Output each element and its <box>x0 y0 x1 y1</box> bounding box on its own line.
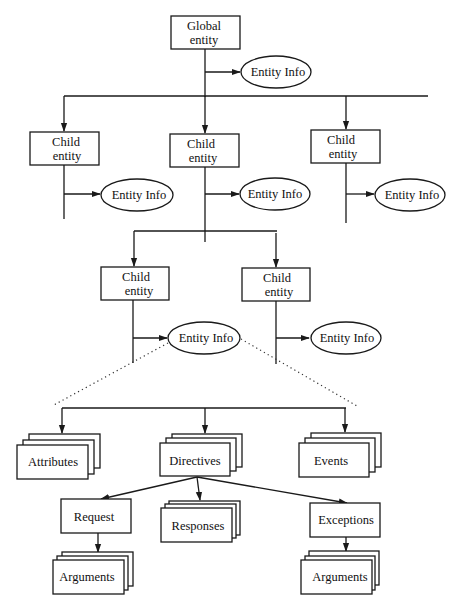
entity-hierarchy-diagram: Global entity Entity Info Child entity E… <box>0 0 463 612</box>
child-entity-label-line1: Child <box>122 270 151 284</box>
child-entity-label-line2: entity <box>265 285 294 299</box>
attributes-label: Attributes <box>28 455 78 469</box>
child-entity-l2-right: Child entity <box>242 268 310 301</box>
exceptions-label: Exceptions <box>318 513 374 527</box>
directives-to-exceptions-arrow <box>197 477 347 503</box>
child-entity-label-line1: Child <box>187 137 216 151</box>
child-entity-l1-left: Child entity <box>30 132 99 165</box>
entity-info-label: Entity Info <box>385 188 440 202</box>
request-label: Request <box>74 510 115 524</box>
child-entity-label-line1: Child <box>52 135 81 149</box>
child-entity-label-line2: entity <box>189 151 218 165</box>
child-entity-l1-middle: Child entity <box>170 134 239 167</box>
child-entity-label-line2: entity <box>125 284 154 298</box>
request-node: Request <box>61 499 131 533</box>
global-entity-info: Entity Info <box>241 56 311 88</box>
directives-stack: Directives <box>160 434 242 476</box>
expansion-dotted-left <box>52 343 168 406</box>
directives-to-responses-arrow <box>197 477 200 500</box>
global-entity-label-line1: Global <box>187 19 222 33</box>
request-arguments-stack: Arguments <box>53 552 133 594</box>
events-stack: Events <box>299 433 381 477</box>
child-entity-label-line2: entity <box>329 147 358 161</box>
attributes-stack: Attributes <box>17 434 100 479</box>
child-l2-right-entity-info: Entity Info <box>311 322 381 354</box>
entity-info-label: Entity Info <box>112 188 167 202</box>
exceptions-node: Exceptions <box>310 503 380 537</box>
child-l1-middle-entity-info: Entity Info <box>240 178 310 210</box>
child-entity-l2-left: Child entity <box>101 267 169 300</box>
entity-info-label: Entity Info <box>320 331 375 345</box>
child-l2-left-entity-info: Entity Info <box>168 322 240 354</box>
request-arguments-label: Arguments <box>59 570 114 584</box>
directives-label: Directives <box>169 454 221 468</box>
responses-stack: Responses <box>161 501 240 542</box>
exception-arguments-stack: Arguments <box>301 551 379 594</box>
global-entity-node: Global entity <box>171 16 240 49</box>
child-entity-label-line1: Child <box>263 271 292 285</box>
child-entity-label-line1: Child <box>327 133 356 147</box>
entity-info-label: Entity Info <box>179 331 234 345</box>
responses-label: Responses <box>172 519 225 533</box>
global-entity-info-label: Entity Info <box>251 65 306 79</box>
child-l1-right-entity-info: Entity Info <box>375 179 445 211</box>
exception-arguments-label: Arguments <box>312 570 367 584</box>
global-entity-label-line2: entity <box>190 33 219 47</box>
events-label: Events <box>314 454 348 468</box>
child-entity-l1-right: Child entity <box>311 130 380 163</box>
entity-info-label: Entity Info <box>248 187 303 201</box>
child-l1-left-entity-info: Entity Info <box>101 179 173 211</box>
directives-to-request-arrow <box>101 477 197 499</box>
child-entity-label-line2: entity <box>53 149 82 163</box>
